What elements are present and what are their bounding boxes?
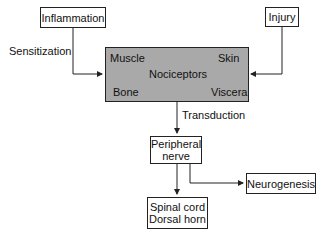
peripheral-line2: nerve — [162, 150, 190, 162]
inflammation-box: Inflammation — [40, 7, 106, 28]
inflammation-arrow — [73, 27, 102, 74]
neurogenesis-box: Neurogenesis — [246, 173, 316, 194]
transduction-label: Transduction — [182, 109, 245, 121]
sensitization-label: Sensitization — [9, 45, 71, 57]
muscle-label: Muscle — [110, 52, 145, 64]
injury-box: Injury — [265, 7, 299, 27]
spinal-line2: Dorsal horn — [149, 213, 206, 225]
neurogenesis-label: Neurogenesis — [247, 178, 315, 190]
bone-label: Bone — [113, 86, 139, 98]
peripheral-nerve-box: Peripheralnerve — [150, 136, 202, 164]
spinal-cord-box: Spinal cordDorsal horn — [147, 197, 208, 229]
skin-label: Skin — [218, 52, 239, 64]
nociceptors-label: Nociceptors — [149, 68, 207, 80]
spinal-line1: Spinal cord — [150, 201, 205, 213]
inflammation-label: Inflammation — [42, 12, 105, 24]
injury-label: Injury — [269, 11, 296, 23]
neurogenesis-arrow — [190, 163, 243, 183]
peripheral-line1: Peripheral — [151, 138, 201, 150]
injury-arrow — [251, 26, 282, 74]
viscera-label: Viscera — [211, 86, 247, 98]
